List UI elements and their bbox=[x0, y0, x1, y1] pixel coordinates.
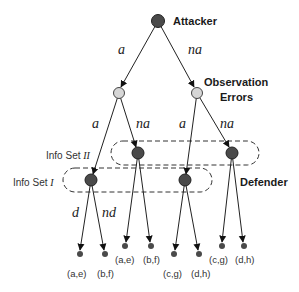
edge-defI-right-d bbox=[175, 180, 185, 250]
leaf-node bbox=[241, 243, 247, 249]
defender-node-I-left bbox=[85, 174, 97, 186]
attacker-node bbox=[152, 15, 165, 28]
edge-defII-left-d bbox=[126, 153, 138, 242]
edge-label-defender-d: d bbox=[72, 205, 80, 220]
edge-defI-left-d bbox=[80, 180, 91, 250]
edge-label-defender-nd: nd bbox=[102, 205, 117, 220]
info-set-I-label: Info Set I bbox=[13, 177, 54, 188]
observation-errors-label-1: Observation bbox=[204, 76, 268, 88]
payoff-label: (d,h) bbox=[235, 254, 255, 265]
payoff-label: (b,f) bbox=[97, 268, 114, 279]
attacker-label: Attacker bbox=[173, 15, 218, 27]
edge-chance-left-a bbox=[93, 93, 119, 174]
edge-chance-left-na bbox=[119, 93, 136, 147]
edge-root-a bbox=[121, 21, 158, 87]
edge-defI-right-nd bbox=[185, 180, 198, 250]
edge-chance-right-a bbox=[186, 93, 197, 174]
payoff-label: (c,g) bbox=[163, 268, 182, 279]
leaf-node bbox=[219, 243, 225, 249]
payoff-label: (d,h) bbox=[191, 268, 211, 279]
payoff-label: (a,e) bbox=[115, 254, 135, 265]
defender-node-II-right bbox=[226, 147, 238, 159]
edge-label-chance-left-a: a bbox=[92, 116, 99, 131]
payoff-label: (a,e) bbox=[67, 268, 87, 279]
leaf-node bbox=[171, 251, 177, 257]
edge-defII-left-nd bbox=[138, 153, 150, 242]
payoff-label: (c,g) bbox=[209, 254, 228, 265]
edge-label-root-na: na bbox=[188, 42, 202, 57]
defender-node-II-left bbox=[132, 147, 144, 159]
chance-node-left bbox=[114, 88, 125, 99]
leaf-node bbox=[102, 251, 108, 257]
leaf-node bbox=[122, 243, 128, 249]
info-set-II-label: Info Set II bbox=[46, 150, 91, 161]
leaf-node bbox=[148, 243, 154, 249]
chance-node-right bbox=[192, 88, 203, 99]
edge-label-chance-right-na: na bbox=[220, 116, 234, 131]
edge-label-chance-right-a: a bbox=[179, 116, 186, 131]
defender-node-I-right bbox=[179, 174, 191, 186]
game-tree-diagram: Attacker Observation Errors Defender Inf… bbox=[0, 0, 299, 292]
payoff-label: (b,f) bbox=[143, 254, 160, 265]
leaf-node bbox=[196, 251, 202, 257]
edge-defII-right-d bbox=[222, 153, 232, 242]
diagram-canvas: Attacker Observation Errors Defender Inf… bbox=[0, 0, 299, 292]
edge-label-root-a: a bbox=[118, 42, 125, 57]
leaf-node bbox=[77, 251, 83, 257]
edge-label-chance-left-na: na bbox=[136, 116, 150, 131]
defender-label: Defender bbox=[240, 176, 288, 188]
observation-errors-label-2: Errors bbox=[220, 91, 253, 103]
edge-defII-right-nd bbox=[232, 153, 243, 242]
